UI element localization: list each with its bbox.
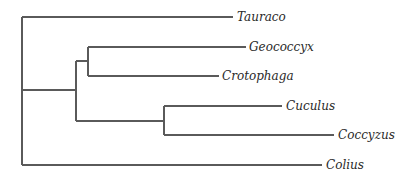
taxon-labels: Tauraco Geococcyx Crotophaga Cuculus Coc… [222,10,395,172]
label-cuculus: Cuculus [286,99,335,113]
label-tauraco: Tauraco [237,10,286,24]
label-colius: Colius [326,158,364,172]
label-geococcyx: Geococcyx [249,40,314,54]
phylogenetic-tree: Tauraco Geococcyx Crotophaga Cuculus Coc… [0,0,417,182]
label-crotophaga: Crotophaga [222,69,294,83]
label-coccyzus: Coccyzus [338,128,395,142]
